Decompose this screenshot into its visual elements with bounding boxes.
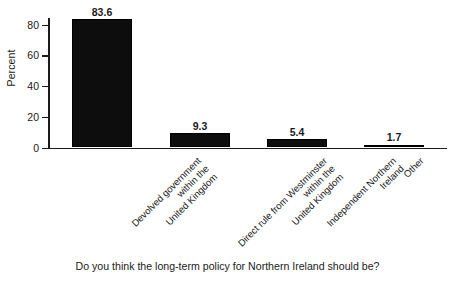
y-tick-label-80: 80 [5,20,39,30]
cat-line: Independent Northern [324,155,398,229]
y-axis-spine [48,18,50,149]
y-tick-80 [42,25,48,26]
bar-value-devolved-government: 83.6 [72,6,132,18]
y-tick-label-40: 40 [5,81,39,91]
bar-direct-rule-westminster [170,133,230,147]
y-tick-20 [42,117,48,118]
bar-independent-northern-ireland [267,139,327,147]
bar-value-independent-northern-ireland: 5.4 [267,126,327,138]
x-category-label-independent-northern-ireland: Independent Northern Ireland [324,155,406,237]
y-tick-60 [42,55,48,56]
y-tick-label-0: 0 [5,143,39,153]
bar-value-other: 1.7 [364,131,424,143]
y-tick-0 [42,148,48,149]
y-tick-label-60: 60 [5,50,39,60]
bar-other [364,145,424,148]
y-tick-40 [42,86,48,87]
x-axis-spine [48,148,447,150]
cat-line: Other [401,155,426,180]
x-category-label-other: Other [401,155,426,180]
bar-chart: Percent 80 60 40 20 0 83.6 Devolved gove… [0,0,455,282]
chart-caption: Do you think the long-term policy for No… [0,260,455,272]
x-category-label-devolved-government: Devolved government within the United Ki… [129,155,219,245]
bar-devolved-government [72,19,132,147]
x-category-label-direct-rule-westminster: Direct rule from Westminster within the … [236,155,346,265]
y-tick-label-20: 20 [5,112,39,122]
bar-value-direct-rule-westminster: 9.3 [170,120,230,132]
